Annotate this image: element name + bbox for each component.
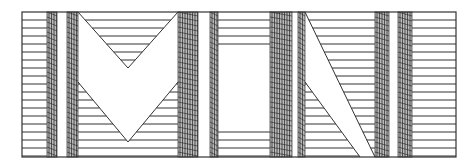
frame-border: [22, 12, 456, 157]
diagonal-strokes: [78, 12, 375, 157]
min-hatched-artwork: [0, 0, 472, 165]
horizontal-lines: [22, 20, 456, 156]
